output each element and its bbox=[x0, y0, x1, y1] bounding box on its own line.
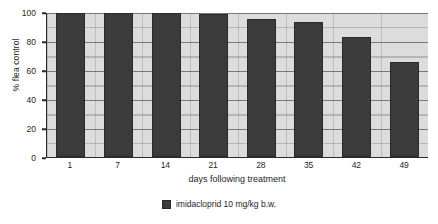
y-tick-label-100: 100 bbox=[2, 8, 36, 18]
bar-slot-day-49 bbox=[380, 13, 428, 157]
bar-slot-day-7 bbox=[95, 13, 143, 157]
x-axis-ticks: 1 7 14 21 28 35 42 49 bbox=[46, 160, 428, 170]
bar-day-49 bbox=[390, 62, 419, 157]
flea-control-bar-chart: % flea control 100 80 60 40 20 0 bbox=[0, 0, 438, 224]
x-tick-label-14: 14 bbox=[142, 160, 190, 170]
y-tick-label-60: 60 bbox=[2, 66, 36, 76]
x-tick-label-42: 42 bbox=[333, 160, 381, 170]
x-tick-label-1: 1 bbox=[46, 160, 94, 170]
bar-group bbox=[47, 13, 428, 157]
bar-day-42 bbox=[342, 37, 371, 157]
chart-legend: imidacloprid 10 mg/kg b.w. bbox=[0, 199, 438, 209]
y-tick-label-40: 40 bbox=[2, 95, 36, 105]
y-axis-ticks: 100 80 60 40 20 0 bbox=[0, 13, 44, 158]
bar-slot-day-35 bbox=[285, 13, 333, 157]
x-tick-label-35: 35 bbox=[285, 160, 333, 170]
bar-day-7 bbox=[104, 13, 133, 157]
legend-swatch-imidacloprid bbox=[162, 200, 171, 209]
x-tick-label-21: 21 bbox=[189, 160, 237, 170]
x-tick-label-49: 49 bbox=[380, 160, 428, 170]
bar-slot-day-21 bbox=[190, 13, 238, 157]
bar-slot-day-1 bbox=[47, 13, 95, 157]
bar-slot-day-28 bbox=[238, 13, 286, 157]
bar-day-21 bbox=[199, 14, 228, 157]
y-tick-label-0: 0 bbox=[2, 153, 36, 163]
x-axis-title: days following treatment bbox=[46, 174, 428, 184]
bar-day-14 bbox=[152, 13, 181, 157]
bar-slot-day-14 bbox=[142, 13, 190, 157]
legend-label-imidacloprid: imidacloprid 10 mg/kg b.w. bbox=[176, 199, 276, 209]
bar-day-28 bbox=[247, 19, 276, 157]
y-tick-label-80: 80 bbox=[2, 37, 36, 47]
plot-area bbox=[46, 13, 428, 158]
bar-day-1 bbox=[56, 13, 85, 157]
x-tick-label-7: 7 bbox=[94, 160, 142, 170]
x-tick-label-28: 28 bbox=[237, 160, 285, 170]
plot-area-wrapper bbox=[46, 13, 428, 158]
bar-day-35 bbox=[294, 22, 323, 157]
bar-slot-day-42 bbox=[333, 13, 381, 157]
y-tick-label-20: 20 bbox=[2, 124, 36, 134]
